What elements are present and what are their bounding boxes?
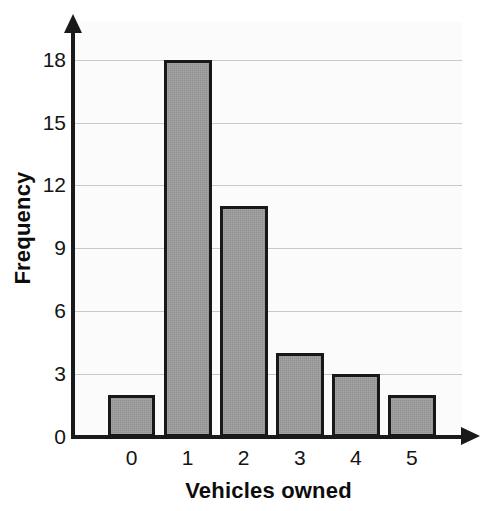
y-axis-arrow-icon [64,14,82,33]
gridline [75,374,462,375]
x-tick-label: 1 [158,447,218,468]
y-axis-line [71,30,75,439]
bar-4 [332,374,380,437]
x-axis-line [71,435,463,439]
gridline [75,311,462,312]
bar-5 [388,395,436,437]
bar-2 [220,206,268,437]
y-tick-label: 18 [24,49,66,70]
y-axis-title: Frequency [10,123,36,333]
gridline [75,123,462,124]
bar-3 [276,353,324,437]
bar-0 [108,395,156,437]
x-axis-arrow-icon [461,427,480,445]
bar-chart-figure: 0369121518 012345 Frequency Vehicles own… [0,0,497,511]
x-tick-label: 0 [102,447,162,468]
x-tick-label: 5 [382,447,442,468]
gridline [75,248,462,249]
x-tick-label: 3 [270,447,330,468]
x-tick-label: 2 [214,447,274,468]
y-tick-label: 0 [24,426,66,447]
bar-1 [164,60,212,437]
x-axis-tick-labels: 012345 [75,447,462,473]
x-axis-title: Vehicles owned [75,478,462,504]
gridline [75,60,462,61]
x-tick-label: 4 [326,447,386,468]
plot-area [75,22,462,437]
gridline [75,185,462,186]
y-tick-label: 3 [24,363,66,384]
